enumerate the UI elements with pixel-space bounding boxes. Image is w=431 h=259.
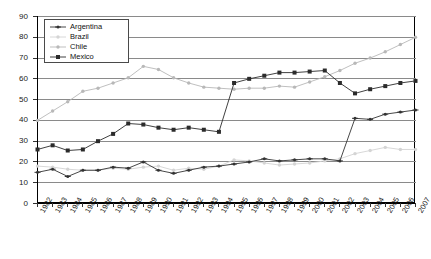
x-tick-mark xyxy=(203,203,204,207)
y-tick-label: 30 xyxy=(0,137,28,145)
line-chart: 9080706050403020100 19821983198419851986… xyxy=(0,0,431,259)
gridline xyxy=(38,161,416,162)
legend-item-2: Chile xyxy=(48,42,125,52)
legend-item-3: Mexico xyxy=(48,52,125,62)
x-tick-mark xyxy=(82,203,83,207)
legend: Argentina Brazil Chile Mexico xyxy=(44,19,129,63)
y-tick-label: 70 xyxy=(0,54,28,62)
gridline xyxy=(38,78,416,79)
y-tick-mark xyxy=(33,78,37,79)
legend-label: Brazil xyxy=(68,32,89,42)
x-tick-mark xyxy=(415,203,416,207)
x-tick-mark xyxy=(218,203,219,207)
data-point xyxy=(56,55,60,59)
x-tick-mark xyxy=(370,203,371,207)
gridline xyxy=(38,141,416,142)
y-tick-mark xyxy=(33,120,37,121)
legend-item-0: Argentina xyxy=(48,22,125,32)
legend-label: Mexico xyxy=(68,52,94,62)
y-tick-label: 90 xyxy=(0,13,28,21)
y-tick-mark xyxy=(33,99,37,100)
y-tick-label: 20 xyxy=(0,158,28,166)
data-point xyxy=(56,35,59,38)
legend-marker-icon xyxy=(48,32,68,42)
y-axis-line xyxy=(37,16,38,204)
x-tick-mark xyxy=(52,203,53,207)
y-tick-label: 10 xyxy=(0,179,28,187)
x-tick-mark xyxy=(113,203,114,207)
y-tick-mark xyxy=(33,141,37,142)
legend-label: Chile xyxy=(68,42,87,52)
y-tick-mark xyxy=(33,182,37,183)
y-tick-mark xyxy=(33,37,37,38)
legend-marker-icon xyxy=(48,52,68,62)
legend-marker-icon xyxy=(48,22,68,32)
data-point xyxy=(56,45,59,48)
y-tick-label: 50 xyxy=(0,96,28,104)
data-point xyxy=(55,26,61,29)
x-tick-mark xyxy=(67,203,68,207)
x-tick-mark xyxy=(339,203,340,207)
y-tick-label: 0 xyxy=(0,200,28,208)
x-tick-mark xyxy=(173,203,174,207)
y-tick-label: 80 xyxy=(0,33,28,41)
legend-item-1: Brazil xyxy=(48,32,125,42)
x-tick-mark xyxy=(355,203,356,207)
y-tick-mark xyxy=(33,161,37,162)
gridline xyxy=(38,16,416,17)
y-tick-mark xyxy=(33,58,37,59)
x-tick-mark xyxy=(188,203,189,207)
y-tick-label: 60 xyxy=(0,75,28,83)
x-tick-mark xyxy=(37,203,38,207)
x-tick-mark xyxy=(294,203,295,207)
y-tick-label: 40 xyxy=(0,116,28,124)
gridline xyxy=(38,99,416,100)
x-tick-mark xyxy=(324,203,325,207)
x-tick-label: 2007 xyxy=(416,196,431,215)
x-tick-mark xyxy=(234,203,235,207)
x-tick-mark xyxy=(309,203,310,207)
x-tick-mark xyxy=(97,203,98,207)
legend-marker-icon xyxy=(48,42,68,52)
gridline xyxy=(38,182,416,183)
y-tick-mark xyxy=(33,16,37,17)
gridline xyxy=(38,120,416,121)
legend-label: Argentina xyxy=(68,22,102,32)
